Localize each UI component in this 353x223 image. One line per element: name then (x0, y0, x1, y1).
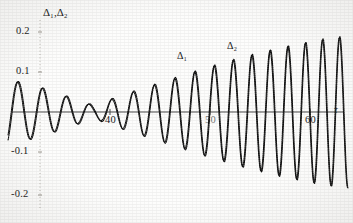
y-tick-label-0.2: 0.2 (16, 26, 30, 37)
y-tick-label-neg0.2: -0.2 (11, 189, 28, 200)
y-tick-label-0.1: 0.1 (16, 66, 30, 77)
x-tick-label-60: 60 (305, 115, 316, 126)
x-tick-label-50: 50 (205, 115, 216, 126)
axes-group (12, 20, 344, 210)
chart-canvas (0, 0, 353, 223)
y-tick-label-neg0.1: -0.1 (11, 146, 28, 157)
figure: Δ₁,Δ₂ 0.2 0.1 -0.1 -0.2 40 50 60 τ Δ₁ Δ₂ (0, 0, 353, 223)
curve-annotation-delta2: Δ₂ (227, 41, 237, 51)
y-axis-title: Δ₁,Δ₂ (43, 7, 68, 18)
x-tick-label-40: 40 (105, 115, 116, 126)
x-axis-title: τ (334, 105, 338, 115)
curve-annotation-delta1: Δ₁ (177, 51, 187, 61)
